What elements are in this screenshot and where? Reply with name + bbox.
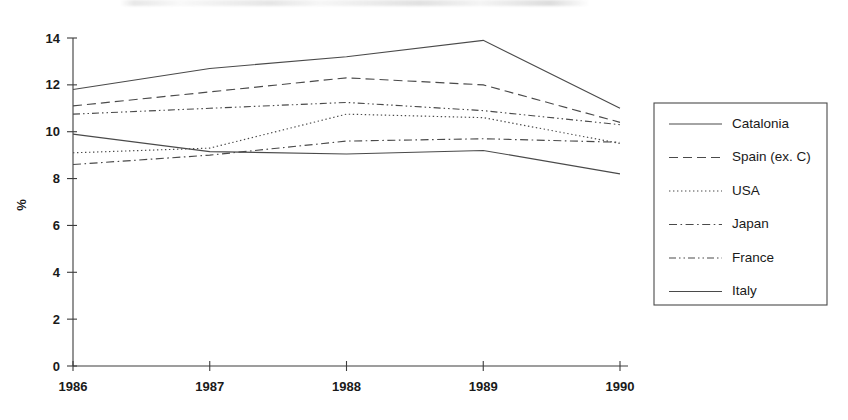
y-tick-label: 4 — [53, 265, 61, 280]
y-tick-label: 12 — [46, 77, 60, 92]
x-tick-label: 1986 — [59, 379, 88, 394]
y-tick-label: 10 — [46, 124, 60, 139]
x-tick-label: 1987 — [195, 379, 224, 394]
legend-label-italy: Italy — [732, 283, 757, 298]
y-tick-label: 8 — [53, 171, 60, 186]
legend-label-catalonia: Catalonia — [732, 116, 790, 131]
y-axis: 02468101214 — [46, 31, 77, 374]
legend-label-usa: USA — [732, 183, 760, 198]
x-tick-label: 1989 — [469, 379, 498, 394]
series-line-japan — [73, 139, 620, 165]
y-tick-label: 2 — [53, 312, 60, 327]
y-axis-title: % — [14, 199, 29, 211]
y-tick-label: 6 — [53, 218, 60, 233]
legend-label-spain-ex-c: Spain (ex. C) — [732, 149, 811, 164]
legend-label-japan: Japan — [732, 216, 769, 231]
x-tick-label: 1990 — [606, 379, 635, 394]
series-lines — [73, 40, 620, 174]
series-line-catalonia — [73, 40, 620, 108]
series-line-spain-ex-c — [73, 78, 620, 123]
chart-container: 02468101214 19861987198819891990 % Catal… — [0, 0, 848, 420]
series-line-usa — [73, 114, 620, 153]
x-axis: 19861987198819891990 — [59, 361, 635, 394]
y-tick-label: 0 — [53, 359, 60, 374]
legend-box — [654, 103, 827, 305]
x-tick-label: 1988 — [332, 379, 361, 394]
chart-legend: CataloniaSpain (ex. C)USAJapanFranceItal… — [654, 103, 827, 305]
legend-label-france: France — [732, 250, 774, 265]
line-chart: 02468101214 19861987198819891990 % Catal… — [0, 0, 848, 420]
series-line-france — [73, 102, 620, 124]
y-tick-label: 14 — [46, 31, 61, 46]
y-axis-label: % — [14, 199, 29, 211]
